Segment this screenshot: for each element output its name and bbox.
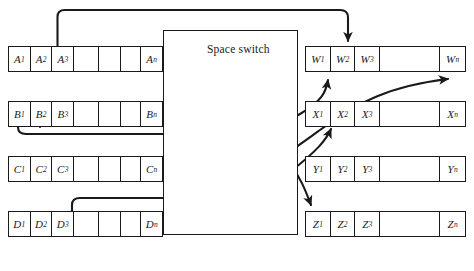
space-switch-figure: Space switch A1A2A3AnB1B2B3BnC1C2C3CnD1D…	[0, 0, 474, 271]
cell-base: Z	[362, 218, 368, 230]
cell-subscript: n	[454, 165, 458, 174]
cell-base: X	[337, 108, 344, 120]
cell-zn: Zn	[440, 212, 465, 236]
cell-subscript: 3	[370, 55, 374, 64]
cell-bn: Bn	[141, 102, 162, 126]
cell-base: Z	[448, 218, 454, 230]
cell-z1: Z1	[306, 212, 331, 236]
cell-base: A	[146, 53, 153, 65]
cell-subscript: 2	[43, 165, 47, 174]
cell-empty	[74, 102, 99, 126]
input-row-a: A1A2A3An	[8, 46, 163, 72]
space-switch-box[interactable]	[163, 30, 298, 235]
cell-x3: X3	[355, 102, 380, 126]
cell-base: W	[446, 53, 455, 65]
cell-base: D	[13, 218, 21, 230]
cell-base: A	[36, 53, 43, 65]
cell-d2: D2	[31, 212, 53, 236]
output-row-z: Z1Z2Z3Zn	[305, 211, 466, 237]
cell-empty	[380, 47, 440, 71]
cell-b2: B2	[31, 102, 53, 126]
cell-base: Z	[313, 218, 319, 230]
cell-base: W	[311, 53, 320, 65]
cell-empty	[99, 212, 121, 236]
cell-cn: Cn	[141, 157, 162, 181]
cell-yn: Yn	[440, 157, 465, 181]
cell-subscript: 2	[43, 220, 47, 229]
cell-w2: W2	[331, 47, 356, 71]
cell-c2: C2	[31, 157, 53, 181]
cell-xn: Xn	[440, 102, 465, 126]
output-row-x: X1X2X3Xn	[305, 101, 466, 127]
cell-empty	[74, 47, 99, 71]
cell-empty	[121, 157, 142, 181]
cell-empty	[99, 47, 121, 71]
cell-base: W	[361, 53, 370, 65]
cell-base: Y	[448, 163, 454, 175]
cell-subscript: 1	[22, 220, 26, 229]
cell-empty	[99, 157, 121, 181]
cell-subscript: 3	[65, 220, 69, 229]
cell-y2: Y2	[331, 157, 356, 181]
cell-subscript: 1	[319, 165, 323, 174]
cell-subscript: n	[454, 110, 458, 119]
cell-subscript: 2	[43, 55, 47, 64]
cell-subscript: 2	[43, 110, 47, 119]
cell-subscript: 3	[369, 165, 373, 174]
cell-empty	[121, 47, 142, 71]
cell-subscript: 1	[321, 55, 325, 64]
cell-d1: D1	[9, 212, 31, 236]
cell-x2: X2	[331, 102, 356, 126]
cell-empty	[380, 157, 440, 181]
cell-subscript: 1	[21, 110, 25, 119]
cell-base: B	[146, 108, 153, 120]
cell-empty	[121, 212, 142, 236]
cell-subscript: 3	[369, 110, 373, 119]
cell-wn: Wn	[440, 47, 465, 71]
cell-a3: A3	[52, 47, 74, 71]
cell-subscript: 3	[64, 55, 68, 64]
cell-empty	[99, 102, 121, 126]
cell-subscript: 1	[319, 110, 323, 119]
cell-base: X	[447, 108, 454, 120]
input-row-c: C1C2C3Cn	[8, 156, 163, 182]
cell-b3: B3	[52, 102, 74, 126]
cell-subscript: 2	[344, 165, 348, 174]
cell-y3: Y3	[355, 157, 380, 181]
cell-base: C	[146, 163, 153, 175]
cell-base: C	[14, 163, 21, 175]
cell-subscript: n	[153, 55, 157, 64]
cell-base: X	[362, 108, 369, 120]
cell-base: B	[36, 108, 43, 120]
cell-base: D	[146, 218, 154, 230]
cell-z3: Z3	[355, 212, 380, 236]
cell-subscript: 1	[319, 220, 323, 229]
output-row-y: Y1Y2Y3Yn	[305, 156, 466, 182]
cell-subscript: 2	[345, 55, 349, 64]
cell-a2: A2	[31, 47, 53, 71]
cell-dn: Dn	[141, 212, 162, 236]
cell-subscript: 3	[64, 110, 68, 119]
cell-base: C	[35, 163, 42, 175]
cell-base: D	[35, 218, 43, 230]
cell-subscript: 2	[344, 110, 348, 119]
cell-a1: A1	[9, 47, 31, 71]
cell-c1: C1	[9, 157, 31, 181]
cell-z2: Z2	[331, 212, 356, 236]
cell-b1: B1	[9, 102, 31, 126]
cell-c3: C3	[52, 157, 74, 181]
cell-empty	[121, 102, 142, 126]
cell-subscript: 1	[21, 165, 25, 174]
cell-base: Y	[337, 163, 343, 175]
cell-base: X	[312, 108, 319, 120]
cell-subscript: n	[154, 165, 158, 174]
cell-subscript: n	[456, 55, 460, 64]
input-row-b: B1B2B3Bn	[8, 101, 163, 127]
cell-x1: X1	[306, 102, 331, 126]
cell-base: D	[57, 218, 65, 230]
input-row-d: D1D2D3Dn	[8, 211, 163, 237]
cell-empty	[74, 157, 99, 181]
cell-w1: W1	[306, 47, 331, 71]
cell-empty	[380, 102, 440, 126]
cell-d3: D3	[52, 212, 74, 236]
